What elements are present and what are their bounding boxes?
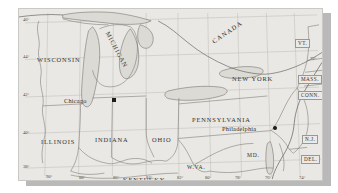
lon-tick-74: 74°	[299, 176, 305, 181]
state-label-west-virginia: W.VA.	[187, 165, 205, 171]
map-screenshot: CANADA WISCONSIN MICHIGAN NEW YORK VT. M…	[0, 0, 338, 193]
state-label-ohio: OHIO	[152, 137, 172, 143]
state-label-delaware: DEL.	[301, 155, 320, 164]
map-geography	[19, 9, 322, 180]
state-label-maryland: MD.	[247, 153, 260, 159]
lon-tick-88: 88°	[79, 176, 85, 181]
state-label-connecticut: CONN.	[298, 91, 323, 100]
state-label-vermont: VT.	[295, 39, 310, 48]
lon-tick-84: 84°	[146, 176, 152, 181]
lat-tick-44: 44°	[23, 55, 29, 60]
state-label-massachusetts: MASS.	[298, 75, 322, 84]
lat-tick-46: 46°	[23, 18, 29, 23]
city-marker-chicago[interactable]	[112, 98, 116, 102]
city-label-philadelphia: Philadelphia	[222, 126, 256, 132]
state-label-kentucky: KENTUCKY	[123, 177, 165, 181]
lat-tick-38: 38°	[23, 165, 29, 170]
lat-tick-42: 42°	[23, 93, 29, 98]
city-marker-philadelphia[interactable]	[273, 126, 277, 130]
great-lakes	[63, 12, 274, 174]
city-label-chicago: Chicago	[64, 98, 87, 104]
map-sheet[interactable]: CANADA WISCONSIN MICHIGAN NEW YORK VT. M…	[18, 8, 323, 181]
lon-tick-76: 76°	[265, 176, 271, 181]
lon-tick-90: 90°	[46, 175, 52, 180]
lat-tick-40: 40°	[23, 131, 29, 136]
state-label-virginia: VIRGINIA	[207, 180, 243, 181]
state-label-pennsylvania: PENNSYLVANIA	[192, 117, 251, 123]
canada-border	[19, 15, 322, 75]
lon-tick-82: 82°	[177, 176, 183, 181]
state-label-new-york: NEW YORK	[232, 76, 273, 82]
lon-tick-72: 72°	[310, 57, 316, 62]
state-label-illinois: ILLINOIS	[41, 139, 75, 145]
lon-tick-86: 86°	[113, 176, 119, 181]
lon-tick-80: 80°	[205, 176, 211, 181]
state-label-indiana: INDIANA	[95, 137, 129, 143]
state-label-wisconsin: WISCONSIN	[37, 57, 81, 63]
lon-tick-78: 78°	[235, 176, 241, 181]
state-label-new-jersey: N.J.	[302, 135, 318, 144]
